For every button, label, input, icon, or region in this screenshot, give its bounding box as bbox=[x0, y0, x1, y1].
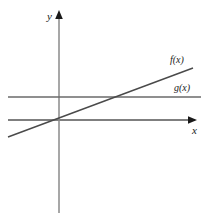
plot-canvas bbox=[0, 0, 207, 217]
curve-label-f: f(x) bbox=[170, 55, 184, 65]
function-graph-figure: y x f(x) g(x) bbox=[0, 0, 207, 217]
x-axis-arrow-icon bbox=[188, 116, 197, 124]
curve-label-g: g(x) bbox=[174, 83, 190, 93]
y-axis-arrow-icon bbox=[55, 10, 63, 19]
x-axis-label: x bbox=[192, 125, 197, 136]
curve-f bbox=[8, 68, 193, 137]
y-axis-label: y bbox=[47, 11, 52, 22]
